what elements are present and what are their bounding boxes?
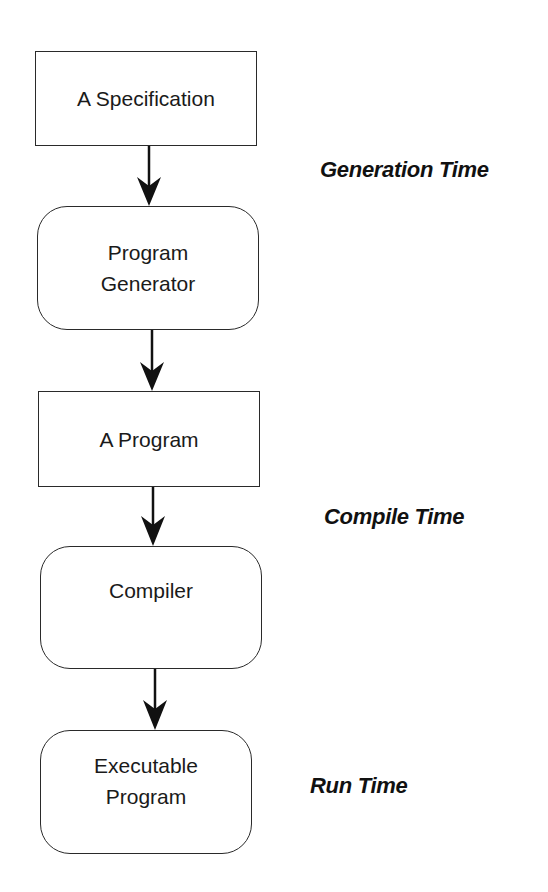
arrow-generator-to-program — [140, 330, 164, 391]
node-program-generator: Program Generator — [37, 206, 259, 330]
node-label: A Program — [99, 424, 198, 455]
phase-label-compile-time: Compile Time — [324, 504, 464, 530]
phase-label-generation-time: Generation Time — [320, 157, 489, 183]
node-label: Compiler — [109, 575, 193, 606]
arrow-spec-to-generator — [137, 146, 161, 206]
node-a-specification: A Specification — [35, 51, 257, 146]
phase-label-run-time: Run Time — [310, 773, 407, 799]
node-label: Executable Program — [94, 750, 198, 812]
node-label: A Specification — [77, 83, 215, 114]
arrow-compiler-to-executable — [143, 669, 167, 730]
node-a-program: A Program — [38, 391, 260, 487]
node-compiler: Compiler — [40, 546, 262, 669]
node-label: Program Generator — [101, 237, 196, 299]
arrow-program-to-compiler — [141, 487, 165, 546]
node-executable-program: Executable Program — [40, 730, 252, 854]
